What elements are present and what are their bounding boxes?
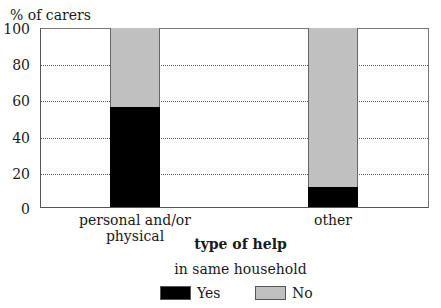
y-tick-80: 80 bbox=[0, 58, 30, 72]
plot-area bbox=[40, 28, 429, 208]
bar-segment-yes bbox=[110, 107, 160, 207]
bar-personal-physical bbox=[110, 28, 160, 207]
gridline-40 bbox=[41, 138, 428, 139]
legend-swatch-yes bbox=[160, 286, 191, 300]
x-axis-title: type of help bbox=[0, 236, 441, 252]
gridline-80 bbox=[41, 65, 428, 66]
gridline-20 bbox=[41, 174, 428, 175]
y-tick-40: 40 bbox=[0, 131, 30, 145]
bar-segment-no bbox=[110, 28, 160, 107]
bar-other bbox=[308, 28, 358, 207]
bar-segment-no bbox=[308, 28, 358, 187]
y-tick-100: 100 bbox=[0, 22, 30, 36]
legend-item-no: No bbox=[255, 285, 313, 301]
bar-segment-yes bbox=[308, 187, 358, 207]
legend-swatch-no bbox=[255, 286, 286, 300]
legend-label-no: No bbox=[292, 285, 313, 301]
legend-label-yes: Yes bbox=[197, 285, 221, 301]
y-tick-0: 0 bbox=[0, 202, 30, 216]
y-tick-60: 60 bbox=[0, 94, 30, 108]
gridline-60 bbox=[41, 101, 428, 102]
legend-title: in same household bbox=[0, 261, 441, 277]
x-category-label: other bbox=[293, 212, 373, 228]
y-tick-20: 20 bbox=[0, 167, 30, 181]
legend-item-yes: Yes bbox=[160, 285, 221, 301]
